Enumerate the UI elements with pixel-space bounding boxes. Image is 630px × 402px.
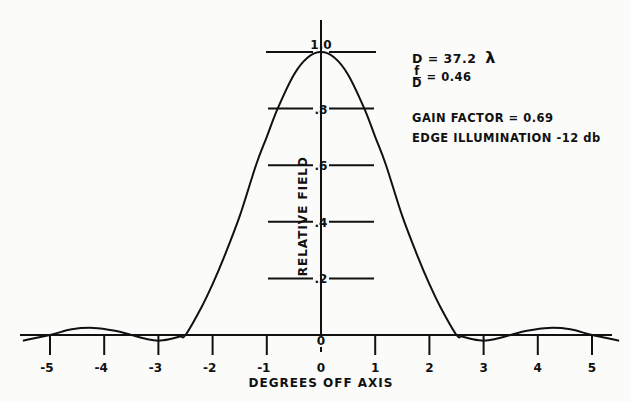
- x-tick-label: 2: [425, 361, 433, 375]
- gain-factor-annotation: GAIN FACTOR = 0.69: [412, 111, 554, 125]
- x-tick-label: 4: [534, 361, 542, 375]
- x-axis-title: DEGREES OFF AXIS: [249, 376, 394, 390]
- x-tick-label: 5: [588, 361, 596, 375]
- origin-label: 0: [317, 334, 325, 348]
- y-axis-title: RELATIVE FIELD: [296, 156, 310, 276]
- x-tick-label: -5: [40, 361, 53, 375]
- x-tick-label: 0: [317, 361, 325, 375]
- lambda-symbol: λ: [485, 48, 496, 67]
- x-tick-label: -2: [203, 361, 216, 375]
- y-tick-label: .4: [315, 216, 328, 230]
- x-tick-label: -4: [95, 361, 108, 375]
- diameter-annotation: D = 37.2 λ: [412, 48, 496, 67]
- y-tick-label: .6: [315, 159, 328, 173]
- radiation-pattern-chart: -5-4-3-2-10123450.2.4.6.81.0DEGREES OFF …: [0, 0, 630, 402]
- x-tick-label: -3: [149, 361, 162, 375]
- focal-ratio-annotation: f D = 0.46: [412, 66, 472, 89]
- fraction-denominator: D: [412, 78, 422, 89]
- x-tick-label: 3: [479, 361, 487, 375]
- y-tick-label: .8: [315, 103, 328, 117]
- y-tick-label: .2: [315, 272, 328, 286]
- x-tick-label: -1: [257, 361, 270, 375]
- y-tick-label: 1.0: [310, 38, 331, 52]
- focal-ratio-fraction: f D: [412, 66, 422, 89]
- focal-ratio-value: = 0.46: [427, 70, 472, 84]
- diameter-text: D = 37.2: [412, 51, 476, 66]
- x-tick-label: 1: [371, 361, 379, 375]
- edge-illumination-annotation: EDGE ILLUMINATION -12 db: [412, 131, 601, 145]
